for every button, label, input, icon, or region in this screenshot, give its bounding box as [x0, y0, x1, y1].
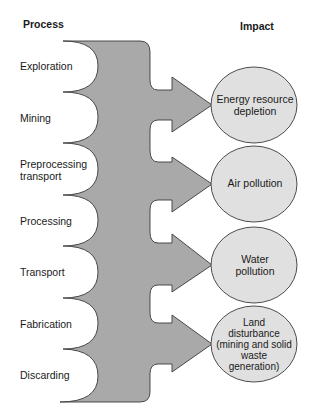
process-exploration: Exploration [20, 60, 73, 72]
impact-land-label: Land disturbance (mining and solid waste… [209, 317, 299, 372]
impact-header: Impact [240, 20, 274, 32]
process-transport: Transport [20, 266, 65, 278]
impact-air-label: Air pollution [209, 178, 301, 190]
process-processing: Processing [20, 215, 72, 227]
process-discarding: Discarding [20, 369, 70, 381]
impact-energy-label: Energy resource depletion [209, 94, 301, 117]
process-flow-shape [60, 41, 212, 402]
process-mining: Mining [20, 112, 51, 124]
process-header: Process [23, 18, 64, 30]
process-preprocessing-transport: Preprocessing transport [20, 158, 87, 182]
impact-water-label: Water pollution [209, 254, 301, 277]
process-fabrication: Fabrication [20, 318, 72, 330]
